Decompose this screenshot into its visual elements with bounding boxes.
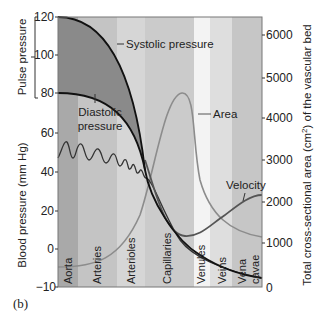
velocity-label: Velocity — [226, 179, 266, 191]
left-axis: 120 100 80 60 40 20 0 −10 — [34, 10, 58, 294]
pulse-pressure-bracket: Pulse pressure — [16, 17, 38, 98]
systolic-label: Systolic pressure — [126, 38, 214, 50]
segment-label-venules: Venules — [195, 244, 207, 284]
right-tick-4000: 4000 — [266, 111, 293, 125]
diastolic-label-line2: pressure — [78, 120, 123, 132]
segment-label-arteries: Arteries — [91, 246, 103, 284]
right-tick-0: 0 — [266, 281, 273, 295]
right-axis-title-part1: Total cross-sectional area (cm — [301, 133, 313, 286]
left-axis-title: Blood pressure (mm Hg) — [16, 142, 28, 267]
right-axis-title: Total cross-sectional area (cm2) of the … — [300, 24, 313, 285]
right-tick-3000: 3000 — [266, 153, 293, 167]
segment-label-arterioles: Arterioles — [125, 237, 137, 284]
segment-label-vena: Vena — [236, 258, 248, 284]
right-tick-2000: 2000 — [266, 195, 293, 209]
right-tick-1000: 1000 — [266, 236, 293, 250]
left-tick-neg10: −10 — [36, 280, 57, 294]
right-tick-6000: 6000 — [266, 28, 293, 42]
left-tick-100: 100 — [34, 48, 54, 62]
pulse-pressure-label: Pulse pressure — [16, 19, 28, 96]
segment-label-aorta: Aorta — [62, 257, 74, 284]
right-axis: 6000 5000 4000 3000 2000 1000 0 — [262, 28, 293, 295]
left-tick-0: 0 — [47, 242, 54, 256]
area-label: Area — [213, 108, 238, 120]
figure-label: (b) — [13, 296, 28, 311]
segment-label-capillaries: Capillaries — [161, 232, 173, 284]
segment-label-cavae: cavae — [249, 255, 261, 284]
left-tick-40: 40 — [41, 165, 55, 179]
circulation-chart: 120 100 80 60 40 20 0 −10 Pulse pressure… — [0, 0, 321, 323]
band-vena-cavae — [232, 17, 262, 287]
left-tick-60: 60 — [41, 126, 55, 140]
diastolic-label-line1: Diastolic — [78, 106, 122, 118]
segment-label-veins: Veins — [216, 257, 228, 284]
right-axis-title-part2: ) of the vascular bed — [301, 24, 313, 128]
band-veins — [210, 17, 232, 287]
left-tick-80: 80 — [41, 86, 55, 100]
left-tick-20: 20 — [41, 204, 55, 218]
right-tick-5000: 5000 — [266, 71, 293, 85]
